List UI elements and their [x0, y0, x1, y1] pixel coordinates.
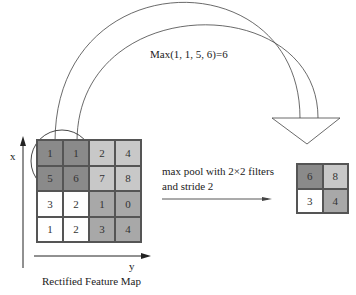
input-cell: 4: [115, 217, 141, 243]
input-cell: 2: [63, 217, 89, 243]
output-cell: 4: [323, 189, 349, 214]
input-cell: 1: [89, 191, 115, 217]
input-cell: 6: [63, 166, 89, 192]
input-cell: 7: [89, 166, 115, 192]
output-cell: 3: [297, 189, 323, 214]
input-cell: 1: [37, 140, 63, 166]
output-cell: 8: [323, 164, 349, 189]
input-cell: 1: [37, 217, 63, 243]
input-cell: 8: [115, 166, 141, 192]
input-cell: 4: [115, 140, 141, 166]
operation-label-line2: and stride 2: [162, 180, 213, 192]
output-pooled-map-grid: 6834: [296, 163, 349, 214]
input-cell: 3: [89, 217, 115, 243]
axis-x-label: x: [10, 150, 16, 162]
input-cell: 2: [89, 140, 115, 166]
input-cell: 0: [115, 191, 141, 217]
output-cell: 6: [297, 164, 323, 189]
input-cell: 1: [63, 140, 89, 166]
input-feature-map-grid: 1124567832101234: [36, 139, 142, 243]
max-formula-text: Max(1, 1, 5, 6)=6: [150, 48, 228, 60]
input-map-title: Rectified Feature Map: [42, 275, 141, 287]
input-cell: 3: [37, 191, 63, 217]
operation-label-line1: max pool with 2×2 filters: [162, 165, 274, 177]
input-cell: 2: [63, 191, 89, 217]
axis-y-label: y: [129, 260, 135, 272]
input-cell: 5: [37, 166, 63, 192]
